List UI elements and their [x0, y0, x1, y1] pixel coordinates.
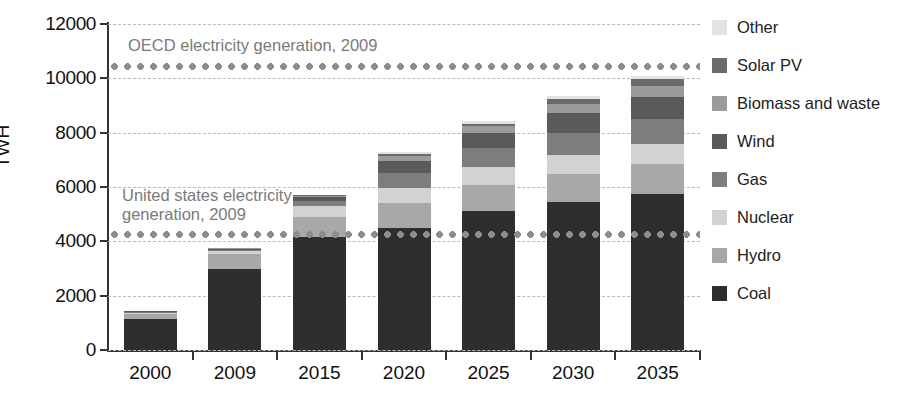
y-axis-tick-label: 4000 — [55, 230, 96, 252]
bar-segment-biomass-and-waste[interactable] — [547, 104, 600, 113]
bar-segment-wind[interactable] — [547, 113, 600, 133]
legend-item-label: Gas — [737, 170, 767, 189]
y-axis-tick-label: 12000 — [45, 13, 96, 35]
x-axis-tick — [699, 351, 701, 360]
bar-segment-gas[interactable] — [378, 173, 431, 188]
legend-item-other[interactable]: Other — [712, 8, 897, 46]
legend-swatch-icon — [712, 172, 727, 187]
reference-line-oecd — [108, 63, 700, 70]
x-axis-tick — [614, 351, 616, 360]
legend-item-solar-pv[interactable]: Solar PV — [712, 46, 897, 84]
y-axis-title: TWH — [0, 125, 14, 168]
y-axis-tick-label: 8000 — [55, 122, 96, 144]
reference-line-usa — [108, 231, 700, 238]
stacked-bar-chart: TWH 020004000600080001000012000 OECD ele… — [0, 0, 903, 400]
legend-item-hydro[interactable]: Hydro — [712, 236, 897, 274]
bar-segment-hydro[interactable] — [378, 203, 431, 227]
legend-item-wind[interactable]: Wind — [712, 122, 897, 160]
x-axis-tick-label: 2020 — [383, 362, 425, 384]
legend-item-label: Other — [737, 18, 778, 37]
bar-segment-coal[interactable] — [547, 202, 600, 350]
bar-segment-biomass-and-waste[interactable] — [631, 86, 684, 97]
bar-segment-hydro[interactable] — [547, 174, 600, 202]
gridline — [108, 78, 700, 79]
bar-segment-nuclear[interactable] — [462, 167, 515, 184]
bar-segment-nuclear[interactable] — [631, 144, 684, 165]
legend-item-label: Biomass and waste — [737, 94, 880, 113]
bar-segment-hydro[interactable] — [631, 164, 684, 193]
bar-segment-nuclear[interactable] — [378, 188, 431, 203]
reference-label-usa: United states electricity generation, 20… — [122, 186, 292, 224]
x-axis-tick-label: 2009 — [214, 362, 256, 384]
legend-swatch-icon — [712, 286, 727, 301]
legend-swatch-icon — [712, 248, 727, 263]
bar-2020[interactable] — [378, 152, 431, 350]
gridline — [108, 24, 700, 25]
x-axis-tick — [276, 351, 278, 360]
legend-swatch-icon — [712, 210, 727, 225]
legend-item-label: Nuclear — [737, 208, 794, 227]
bar-segment-coal[interactable] — [378, 228, 431, 350]
y-axis-tick-label: 2000 — [55, 285, 96, 307]
plot-area: OECD electricity generation, 2009United … — [108, 24, 700, 350]
legend-swatch-icon — [712, 134, 727, 149]
bar-segment-gas[interactable] — [462, 148, 515, 167]
x-axis-tick-label: 2030 — [552, 362, 594, 384]
bar-segment-wind[interactable] — [378, 161, 431, 173]
bar-segment-nuclear[interactable] — [293, 206, 346, 217]
legend-swatch-icon — [712, 20, 727, 35]
legend-item-label: Wind — [737, 132, 775, 151]
bar-2030[interactable] — [547, 96, 600, 350]
legend-item-label: Hydro — [737, 246, 781, 265]
bar-segment-wind[interactable] — [462, 133, 515, 148]
bar-2000[interactable] — [124, 311, 177, 350]
bar-segment-coal[interactable] — [293, 237, 346, 350]
legend-swatch-icon — [712, 58, 727, 73]
bar-2009[interactable] — [208, 248, 261, 350]
bar-segment-wind[interactable] — [631, 97, 684, 120]
legend-item-biomass-and-waste[interactable]: Biomass and waste — [712, 84, 897, 122]
bar-segment-coal[interactable] — [208, 269, 261, 350]
gridline — [108, 133, 700, 134]
y-axis-tick-label: 10000 — [45, 67, 96, 89]
legend-item-label: Solar PV — [737, 56, 802, 75]
bar-segment-hydro[interactable] — [462, 185, 515, 212]
x-axis-tick-label: 2035 — [637, 362, 679, 384]
x-axis-tick — [445, 351, 447, 360]
y-axis-tick-label: 6000 — [55, 176, 96, 198]
bar-2035[interactable] — [631, 76, 684, 350]
legend-item-coal[interactable]: Coal — [712, 274, 897, 312]
x-axis-tick — [192, 351, 194, 360]
y-axis-tick-label: 0 — [86, 339, 96, 361]
bar-segment-biomass-and-waste[interactable] — [462, 126, 515, 133]
bar-segment-nuclear[interactable] — [547, 155, 600, 174]
bar-segment-gas[interactable] — [631, 119, 684, 143]
bar-2015[interactable] — [293, 195, 346, 350]
x-axis-tick-label: 2000 — [129, 362, 171, 384]
x-axis-tick-label: 2015 — [298, 362, 340, 384]
reference-label-oecd: OECD electricity generation, 2009 — [128, 36, 377, 55]
chart-legend: OtherSolar PVBiomass and wasteWindGasNuc… — [712, 8, 897, 312]
x-axis-tick — [530, 351, 532, 360]
bar-segment-gas[interactable] — [547, 133, 600, 155]
legend-item-nuclear[interactable]: Nuclear — [712, 198, 897, 236]
bar-segment-coal[interactable] — [631, 194, 684, 350]
x-axis-tick — [361, 351, 363, 360]
legend-item-gas[interactable]: Gas — [712, 160, 897, 198]
legend-swatch-icon — [712, 96, 727, 111]
legend-item-label: Coal — [737, 284, 771, 303]
bar-segment-coal[interactable] — [124, 319, 177, 350]
x-axis-tick-label: 2025 — [467, 362, 509, 384]
bar-segment-hydro[interactable] — [208, 254, 261, 268]
gridline — [108, 350, 700, 351]
